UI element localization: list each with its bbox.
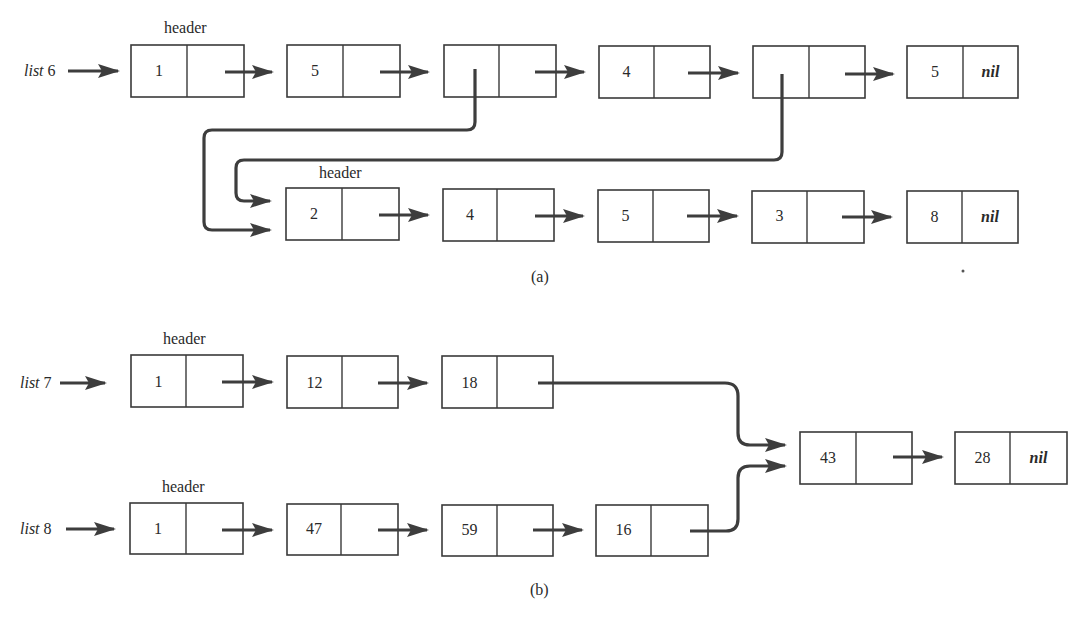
node-value: 43 xyxy=(800,450,856,466)
node-value: 28 xyxy=(955,450,1010,466)
node-value: 1 xyxy=(131,63,187,79)
scan-speck xyxy=(962,270,965,273)
node-value: 4 xyxy=(599,64,654,80)
node-value: 2 xyxy=(286,206,342,222)
list-keyword: list xyxy=(20,520,40,537)
node-value: 5 xyxy=(598,208,653,224)
nil-pointer: nil xyxy=(962,209,1018,225)
node-value: 5 xyxy=(287,63,343,79)
node-value: 47 xyxy=(287,521,341,537)
list7-label: list 7 xyxy=(20,375,52,391)
list-number: 8 xyxy=(44,520,52,537)
list-number: 7 xyxy=(44,374,52,391)
node-value: 8 xyxy=(907,209,962,225)
list6-node-5 xyxy=(753,46,865,98)
list8-label: list 8 xyxy=(20,521,52,537)
node-value: 1 xyxy=(131,374,186,390)
header-label: header xyxy=(163,331,206,347)
list-keyword: list xyxy=(20,374,40,391)
list7-row xyxy=(60,355,785,445)
node-value: 4 xyxy=(443,207,497,223)
header-label: header xyxy=(319,165,362,181)
list-number: 6 xyxy=(48,62,56,79)
header-label: header xyxy=(162,479,205,495)
node-value: 18 xyxy=(442,375,497,391)
caption-b: (b) xyxy=(530,582,549,598)
list6-label: list 6 xyxy=(24,63,56,79)
node-value: 12 xyxy=(287,375,342,391)
list7-merge-curve xyxy=(538,383,785,445)
nil-pointer: nil xyxy=(963,64,1018,80)
node-value: 59 xyxy=(442,522,497,538)
node-value: 5 xyxy=(907,64,963,80)
header-label: header xyxy=(164,20,207,36)
node-value: 3 xyxy=(752,208,807,224)
caption-a: (a) xyxy=(531,269,549,285)
nil-pointer: nil xyxy=(1010,450,1067,466)
node-value: 1 xyxy=(130,521,186,537)
node-value: 16 xyxy=(596,522,651,538)
list-keyword: list xyxy=(24,62,44,79)
